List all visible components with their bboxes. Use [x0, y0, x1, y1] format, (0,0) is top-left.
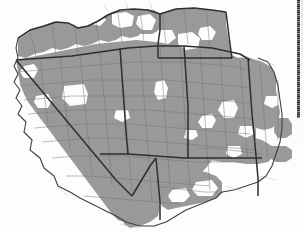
scan-right-margin-shade [301, 0, 303, 232]
county-map-figure [0, 0, 303, 232]
county-map-svg [0, 0, 303, 232]
scan-edge-artifact-strip [297, 0, 300, 118]
scan-grain-overlay [0, 0, 303, 232]
